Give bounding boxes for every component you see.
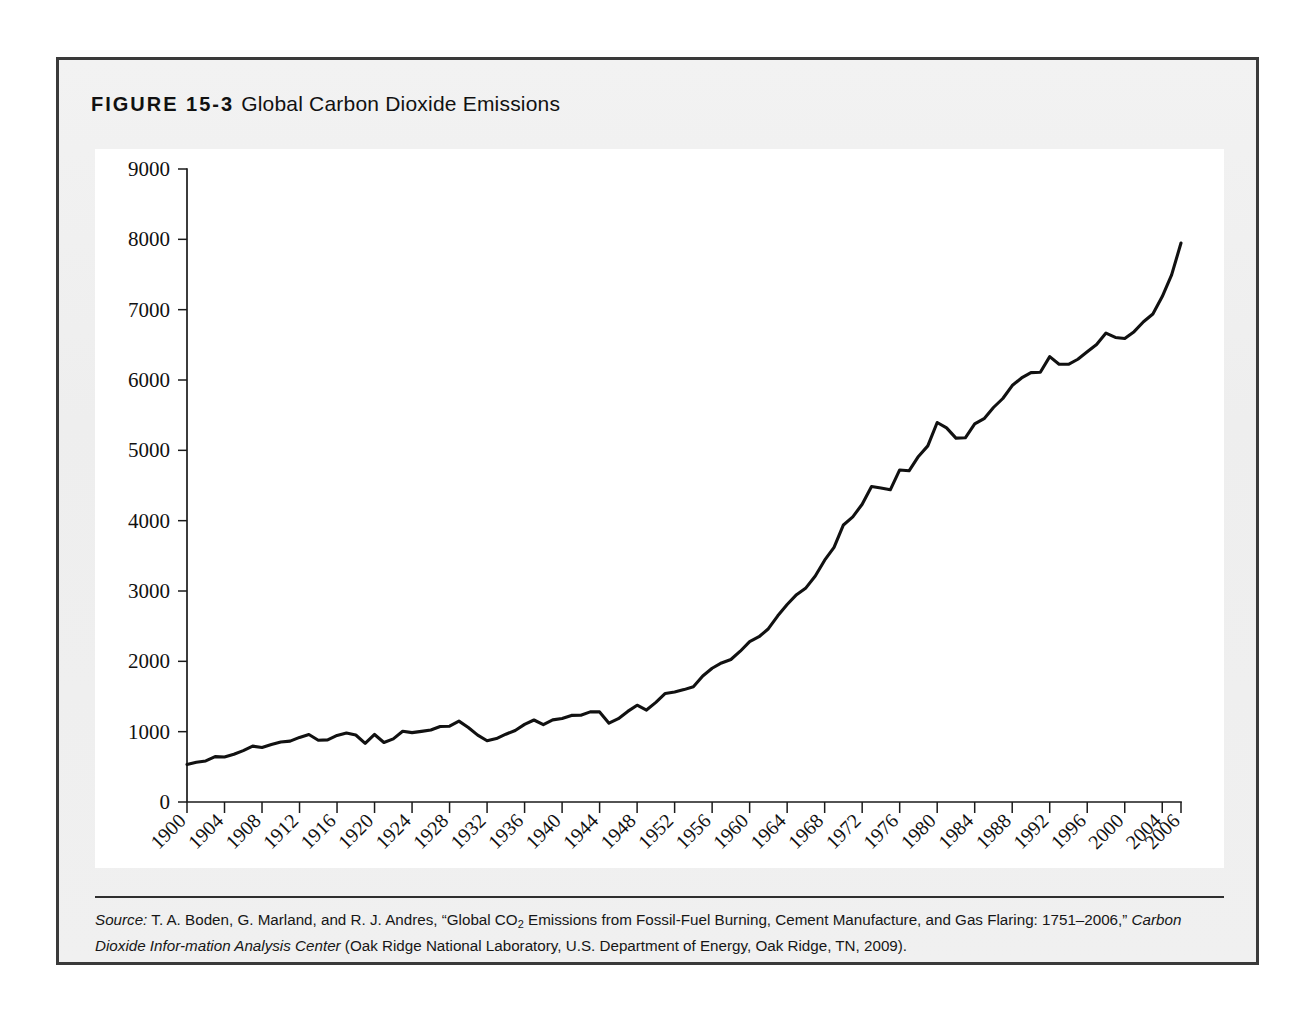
x-axis-tick-label: 1932 xyxy=(446,809,490,853)
y-axis-tick-label: 6000 xyxy=(128,368,170,392)
figure-number-label: FIGURE 15-3 xyxy=(91,93,234,115)
figure-frame: FIGURE 15-3Global Carbon Dioxide Emissio… xyxy=(56,57,1259,965)
figure-root: FIGURE 15-3Global Carbon Dioxide Emissio… xyxy=(0,0,1313,1021)
y-axis-tick-label: 3000 xyxy=(128,579,170,603)
x-axis-tick-label: 1988 xyxy=(971,809,1015,853)
source-label: Source: xyxy=(95,911,147,928)
figure-caption-text: Global Carbon Dioxide Emissions xyxy=(241,92,560,115)
x-axis-tick-label: 1976 xyxy=(859,809,903,853)
source-text-2: Emissions from Fossil-Fuel Burning, Ceme… xyxy=(524,911,1132,928)
x-axis-tick-label: 1948 xyxy=(596,809,640,853)
source-text-3: (Oak Ridge National Laboratory, U.S. Dep… xyxy=(341,937,907,954)
x-axis-tick-label: 1904 xyxy=(183,809,227,853)
chart-axes xyxy=(187,169,1181,802)
x-axis-tick-label: 1964 xyxy=(746,809,790,853)
x-axis-tick-label: 1924 xyxy=(371,809,415,853)
x-axis-tick-label: 1984 xyxy=(934,809,978,853)
figure-title: FIGURE 15-3Global Carbon Dioxide Emissio… xyxy=(91,92,560,116)
x-axis-tick-label: 1996 xyxy=(1046,809,1090,853)
source-text-1: T. A. Boden, G. Marland, and R. J. Andre… xyxy=(147,911,517,928)
x-axis-tick-label: 1980 xyxy=(896,809,940,853)
y-axis-tick-label: 0 xyxy=(160,790,171,814)
x-axis-tick-label: 1952 xyxy=(634,809,678,853)
x-axis-tick-label: 1900 xyxy=(146,809,190,853)
y-axis-tick-label: 5000 xyxy=(128,438,170,462)
x-axis-tick-label: 1936 xyxy=(484,809,528,853)
x-axis-tick-label: 1944 xyxy=(559,809,603,853)
x-axis-tick-label: 1908 xyxy=(221,809,265,853)
y-axis-tick-label: 4000 xyxy=(128,509,170,533)
x-axis-tick-label: 1956 xyxy=(671,809,715,853)
x-axis-tick-label: 2000 xyxy=(1084,809,1128,853)
x-axis-tick-label: 1972 xyxy=(821,809,865,853)
x-axis-tick-label: 1940 xyxy=(521,809,565,853)
emissions-series-line xyxy=(187,243,1181,764)
source-note: Source: T. A. Boden, G. Marland, and R. … xyxy=(95,908,1227,958)
x-axis-tick-label: 1928 xyxy=(409,809,453,853)
y-axis-ticks: 0100020003000400050006000700080009000 xyxy=(128,157,187,814)
plot-area: 0100020003000400050006000700080009000 19… xyxy=(95,149,1224,868)
y-axis-tick-label: 9000 xyxy=(128,157,170,181)
x-axis-tick-label: 1968 xyxy=(784,809,828,853)
y-axis-tick-label: 2000 xyxy=(128,649,170,673)
source-divider xyxy=(95,896,1224,898)
line-chart: 0100020003000400050006000700080009000 19… xyxy=(95,149,1224,868)
x-axis-tick-label: 1960 xyxy=(709,809,753,853)
x-axis-tick-label: 1920 xyxy=(334,809,378,853)
y-axis-tick-label: 1000 xyxy=(128,720,170,744)
x-axis-tick-label: 1992 xyxy=(1009,809,1053,853)
x-axis-tick-label: 1912 xyxy=(259,809,303,853)
x-axis-ticks: 1900190419081912191619201924192819321936… xyxy=(146,802,1184,853)
x-axis-tick-label: 1916 xyxy=(296,809,340,853)
y-axis-tick-label: 8000 xyxy=(128,227,170,251)
y-axis-tick-label: 7000 xyxy=(128,298,170,322)
